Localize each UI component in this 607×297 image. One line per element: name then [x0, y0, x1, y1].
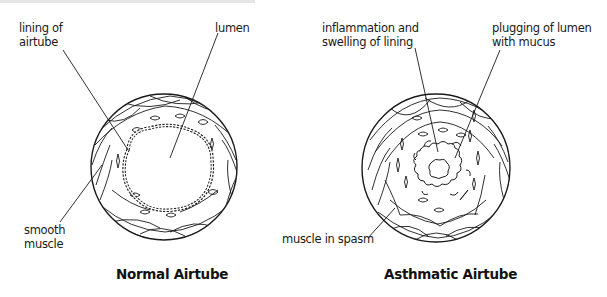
label-muscle-in-spasm: muscle in spasm [282, 232, 374, 246]
normal-airtube-cross-section [91, 94, 238, 242]
label-lining-of-airtube: lining of airtube [19, 21, 63, 49]
title-asthmatic-airtube: Asthmatic Airtube [384, 266, 517, 282]
diagram-stage: lining of airtube lumen smooth muscle No… [0, 0, 607, 297]
label-smooth-muscle: smooth muscle [24, 223, 65, 251]
leader-inflammation [415, 48, 438, 152]
title-normal-airtube: Normal Airtube [116, 266, 228, 282]
label-lumen: lumen [215, 21, 250, 35]
label-inflammation-swelling: inflammation and swelling of lining [322, 21, 419, 49]
leader-lining [63, 50, 128, 150]
label-mucus-plugging: plugging of lumen with mucus [492, 21, 592, 49]
asthmatic-airtube-cross-section [362, 94, 510, 248]
